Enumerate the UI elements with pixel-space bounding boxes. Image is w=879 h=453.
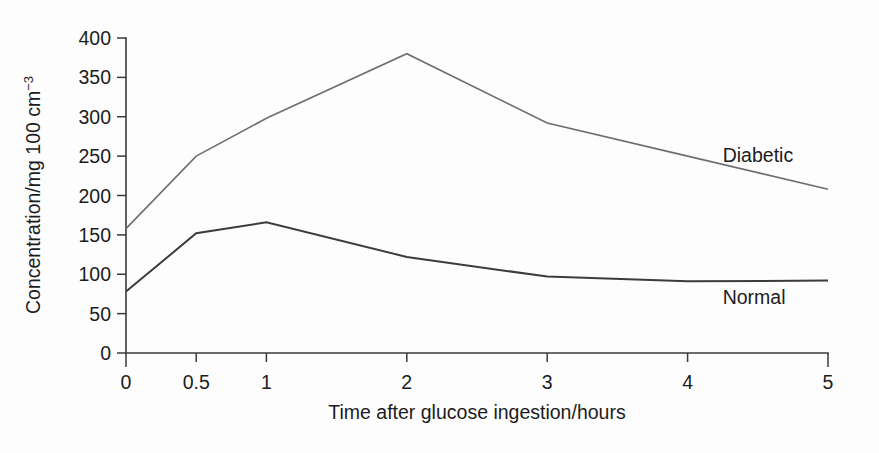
y-tick-label: 400: [78, 27, 111, 49]
series-group: [126, 54, 828, 292]
y-tick-label: 350: [78, 66, 111, 88]
x-tick-label: 1: [261, 371, 272, 393]
series-label-group: DiabeticNormal: [723, 144, 794, 309]
x-tick-label: 0.5: [183, 371, 210, 393]
y-axis-title-group: Concentration/mg 100 cm−3: [21, 76, 45, 314]
y-tick-group: 050100150200250300350400: [78, 27, 126, 364]
y-tick-label: 100: [78, 263, 111, 285]
y-axis-title: Concentration/mg 100 cm−3: [21, 76, 45, 314]
x-axis-title: Time after glucose ingestion/hours: [328, 401, 626, 423]
y-tick-label: 50: [89, 303, 111, 325]
series-label-normal: Normal: [723, 286, 786, 308]
y-axis-title-main: Concentration/mg 100 cm: [22, 91, 44, 314]
y-tick-label: 0: [100, 342, 111, 364]
x-tick-label: 0: [121, 371, 132, 393]
x-tick-label: 2: [401, 371, 412, 393]
y-tick-label: 200: [78, 185, 111, 207]
chart-figure: 050100150200250300350400 00.512345 Diabe…: [0, 0, 879, 453]
y-axis-title-exponent: −3: [21, 76, 36, 91]
y-tick-label: 250: [78, 145, 111, 167]
series-line-normal: [126, 222, 828, 291]
x-tick-label: 5: [823, 371, 834, 393]
series-label-diabetic: Diabetic: [723, 144, 794, 166]
y-tick-label: 300: [78, 106, 111, 128]
y-tick-label: 150: [78, 224, 111, 246]
series-line-diabetic: [126, 54, 828, 229]
x-tick-label: 4: [682, 371, 693, 393]
line-chart: 050100150200250300350400 00.512345 Diabe…: [0, 0, 879, 453]
x-tick-label: 3: [542, 371, 553, 393]
x-tick-group: 00.512345: [121, 353, 834, 393]
